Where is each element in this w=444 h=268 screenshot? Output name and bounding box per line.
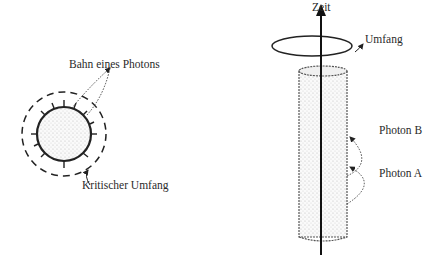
circumference-ellipse (272, 36, 352, 56)
photon-b-label: Photon B (379, 124, 422, 136)
cylinder-body (299, 71, 347, 237)
photon-path-line-1 (72, 68, 110, 108)
circumference-label: Umfang (365, 33, 403, 45)
photon-a-label: Photon A (379, 167, 422, 179)
critical-circumference-label: Kritischer Umfang (82, 179, 169, 191)
time-axis-label: Zeit (312, 1, 331, 13)
photon-path-line-2 (87, 68, 110, 115)
star-surface-circle (37, 107, 91, 161)
circumference-pointer (355, 44, 363, 52)
photon-b-path (347, 167, 364, 204)
cylinder-top (299, 66, 347, 76)
star-cross-section (22, 68, 110, 185)
photon-path-label: Bahn eines Photons (69, 58, 160, 70)
spacetime-cylinder (272, 4, 364, 255)
